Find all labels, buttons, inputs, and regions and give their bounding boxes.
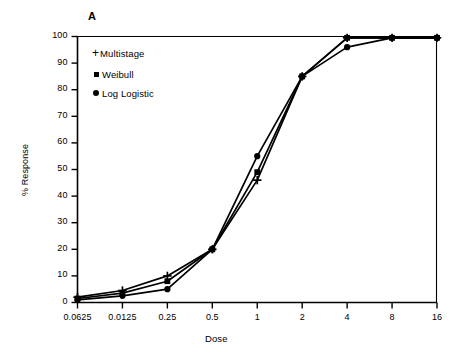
y-tick-label: 20	[30, 243, 68, 253]
legend-label: Log Logistic	[102, 88, 154, 99]
y-tick-label: 60	[30, 136, 68, 146]
y-tick-label: 80	[30, 83, 68, 93]
marker-log-logistic	[434, 35, 440, 41]
panel-label: A	[88, 10, 96, 22]
square-marker	[94, 72, 99, 77]
legend-item-log-logistic: Log Logistic	[92, 87, 154, 99]
y-tick-label: 10	[30, 269, 68, 279]
legend-label: Weibull	[102, 69, 134, 80]
y-tick-label: 0	[30, 296, 68, 306]
y-axis-title: % Response	[20, 144, 30, 196]
x-axis-title: Dose	[205, 333, 228, 344]
y-tick-label: 30	[30, 216, 68, 226]
chart-figure: A % Response Dose 0102030405060708090100…	[0, 0, 451, 355]
legend-label: Multistage	[100, 48, 144, 59]
marker-log-logistic	[209, 246, 215, 252]
y-tick-label: 100	[30, 30, 68, 40]
legend-item-weibull: Weibull	[92, 68, 134, 80]
y-tick-label: 50	[30, 163, 68, 173]
marker-weibull	[254, 169, 260, 175]
marker-weibull	[164, 278, 170, 284]
plot-area	[0, 0, 451, 355]
y-tick-label: 90	[30, 57, 68, 67]
y-tick-label: 70	[30, 110, 68, 120]
marker-log-logistic	[254, 153, 260, 159]
marker-log-logistic	[389, 35, 395, 41]
circle-marker	[93, 90, 99, 96]
x-tick-label: 16	[407, 312, 451, 322]
marker-log-logistic	[299, 73, 305, 79]
legend-item-multistage: +Multistage	[92, 47, 144, 59]
x-tick-marks	[78, 303, 438, 309]
marker-log-logistic	[344, 44, 350, 50]
marker-log-logistic	[74, 297, 80, 303]
marker-weibull	[344, 35, 350, 41]
marker-log-logistic	[119, 293, 125, 299]
plus-marker: +	[92, 48, 99, 58]
y-tick-label: 40	[30, 190, 68, 200]
marker-log-logistic	[164, 286, 170, 292]
y-tick-marks	[72, 37, 78, 303]
